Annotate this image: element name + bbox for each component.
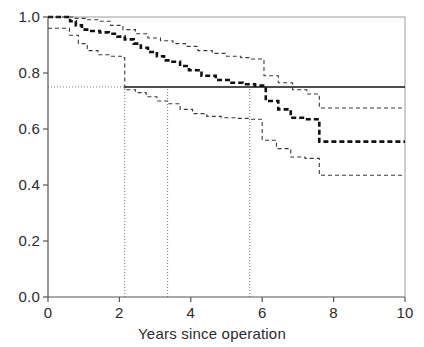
x-tick-label: 10 [390,304,420,321]
y-tick-label: 1.0 [0,8,40,25]
survival-curve [48,17,405,142]
y-tick-label: 0.4 [0,176,40,193]
x-tick-label: 0 [33,304,63,321]
x-tick-label: 4 [176,304,206,321]
y-tick-label: 0.6 [0,120,40,137]
upper-confidence-curve [48,17,405,108]
y-tick-label: 0.2 [0,232,40,249]
x-tick-label: 6 [247,304,277,321]
x-tick-label: 8 [319,304,349,321]
x-axis-title: Years since operation [0,325,424,342]
y-tick-label: 0.8 [0,64,40,81]
survival-plot: 0.00.20.40.60.81.0 0246810 Years since o… [0,0,424,347]
y-tick-label: 0.0 [0,288,40,305]
reference-lines-group [48,87,250,297]
axis-group [48,17,405,297]
lower-confidence-curve [48,28,405,175]
curves-group [48,17,405,175]
plot-canvas [0,0,424,347]
tick-marks-group [43,17,405,302]
x-tick-label: 2 [104,304,134,321]
